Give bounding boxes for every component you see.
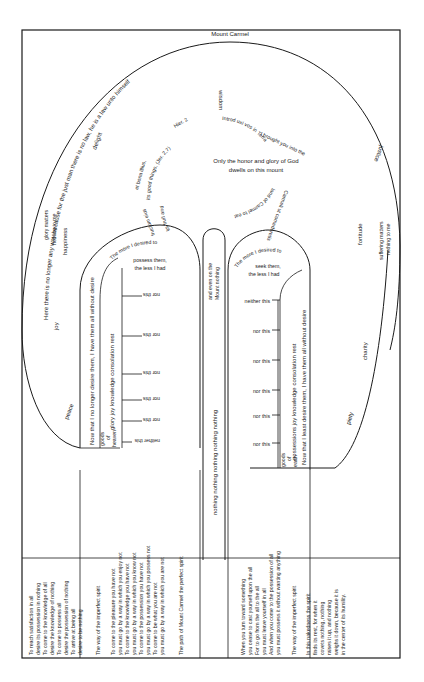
svg-text:you must go by a way in which: you must go by a way in which you posses… <box>145 545 151 655</box>
svg-text:And when you come to the posse: And when you come to the possession of a… <box>268 554 274 655</box>
right-rung-4: nor this <box>253 388 270 394</box>
left-path-label: Now that I no longer desire them, I have… <box>89 277 95 445</box>
virtue-nothing-to-me-right: nothing to me <box>385 223 391 255</box>
svg-text:weighs it down, because it is: weighs it down, because it is <box>333 589 339 655</box>
svg-text:desire the possession of nothi: desire the possession of nothing <box>63 580 69 655</box>
right-path-goods-3: earth <box>292 455 298 467</box>
middle-path-label: nothing nothing nothing nothing nothing <box>212 410 218 515</box>
svg-text:desire to be nothing: desire to be nothing <box>77 609 83 655</box>
svg-text:To come to the knowledge you h: To come to the knowledge you have not <box>124 563 130 655</box>
virtue-glory-matters: glory matters <box>43 210 49 240</box>
svg-text:To reach satisfaction in all: To reach satisfaction in all <box>28 596 34 655</box>
virtue-nothing-to-me-left: nothing to me <box>51 213 57 245</box>
svg-text:desire the knowledge of nothin: desire the knowledge of nothing <box>49 582 55 655</box>
middle-path-top-2: Mount nothing <box>214 267 220 300</box>
left-rung-2: nor this <box>143 332 160 338</box>
left-path-goods-3: heaven <box>111 430 117 447</box>
svg-text:you cease to cast yourself upo: you cease to cast yourself upon the all <box>247 567 253 655</box>
summit-right-arc-3: land of Carmel to eat <box>233 188 276 221</box>
left-rung-3: nor this <box>143 370 160 376</box>
svg-text:you must go by a way in which: you must go by a way in which you know n… <box>131 552 137 655</box>
panel-imperfect-spirit-1: The way of the imperfect spirit To come … <box>95 545 165 655</box>
summit-center-line-1: Only the honor and glory of God <box>213 158 298 164</box>
right-rung-6: nor this <box>253 441 270 447</box>
svg-text:To come to the possession you: To come to the possession you have not <box>138 562 144 655</box>
svg-text:desire its possession in nothi: desire its possession in nothing <box>35 583 41 655</box>
summit-left-arc: its good things, (Jer. 2,7) <box>145 145 172 200</box>
virtue-charity: charity <box>362 342 368 360</box>
virtue-suffering-matters: suffering matters <box>378 221 384 260</box>
svg-text:In this nakedness the spirit: In this nakedness the spirit <box>305 593 311 655</box>
right-rung-1: neither this <box>245 298 271 304</box>
summit-left-arc-2: et bona illius, <box>133 159 147 190</box>
mount-carmel-diagram: Mount Carmel Here there is no longer any… <box>0 0 424 682</box>
panel-perfect-spirit: The path of Mount Carmel the perfect spi… <box>178 551 281 655</box>
right-rung-2: nor this <box>253 328 270 334</box>
left-rung-1: nor this <box>143 292 160 298</box>
svg-text:To come to the knowledge of al: To come to the knowledge of all <box>42 582 48 655</box>
right-path-items: possessions joy knowledge consolation re… <box>291 343 297 460</box>
virtue-wisdom: wisdom <box>218 89 224 110</box>
virtue-piety: piety <box>345 411 354 425</box>
summit-right-arc: Introd uxi vos in Terra <box>222 115 269 143</box>
svg-text:finds its rest, for when it: finds its rest, for when it <box>312 600 318 655</box>
svg-text:For to go from the all to the: For to go from the all to the all <box>254 586 260 655</box>
left-path-header-3: the less I had <box>135 265 166 271</box>
summit-center-line-2: dwells on this mount <box>229 167 284 173</box>
svg-text:To come to possess all: To come to possess all <box>56 603 62 655</box>
svg-text:To arrive at being all: To arrive at being all <box>70 609 76 655</box>
right-rung-3: nor this <box>253 358 270 364</box>
svg-text:covets nothing, nothing: covets nothing, nothing <box>319 602 325 655</box>
summit-left-arc-3: its fruit and <box>158 206 170 233</box>
svg-text:To come to be what you are not: To come to be what you are not <box>152 582 158 655</box>
svg-text:raises it up, and nothing: raises it up, and nothing <box>326 600 332 655</box>
left-rung-4: nor this <box>143 396 160 402</box>
right-path-header-2: seek them, <box>255 263 280 269</box>
middle-path-top-1: and even on the <box>207 263 213 300</box>
left-rung-6: neither this <box>134 438 160 444</box>
right-rungs: neither this nor this nor this nor this … <box>245 298 280 447</box>
svg-text:you must leave yourself in all: you must leave yourself in all <box>261 588 267 655</box>
right-path-label: Now that I least desire them, I have the… <box>301 309 307 465</box>
summit-left-arc-4: fructum eius <box>140 208 155 237</box>
left-rungs: nor this nor this nor this nor this nor … <box>122 292 160 444</box>
svg-text:you must possess it without wa: you must possess it without wanting anyt… <box>275 551 281 655</box>
right-path-header-3: the less I had <box>249 271 280 277</box>
summit-right-arc-2: I brought you into the <box>260 130 307 156</box>
virtue-delight: delight <box>91 131 103 150</box>
svg-text:you must go by a way in which: you must go by a way in which you enjoy … <box>117 552 123 655</box>
left-path-items: glory joy knowledge consolation rest <box>109 333 115 430</box>
outer-arc-text: Here there is no longer any way because … <box>43 78 131 320</box>
left-rung-5: nor this <box>143 417 160 423</box>
virtue-happiness: happiness <box>62 228 68 255</box>
svg-text:you must go by a way in which: you must go by a way in which you are no… <box>159 557 165 655</box>
panel-heading: The path of Mount Carmel the perfect spi… <box>178 556 184 655</box>
svg-text:When you turn toward something: When you turn toward something <box>240 579 246 655</box>
panel-heading: The way of the imperfect spirit <box>291 585 297 655</box>
panel-imperfect-spirit-2: The way of the imperfect spirit In this … <box>291 585 346 655</box>
mountain-outline <box>22 42 400 448</box>
panel-heading: The way of the imperfect spirit <box>95 585 101 655</box>
virtue-peace: peace <box>63 402 74 420</box>
virtue-fortitude: fortitude <box>357 223 363 245</box>
virtue-joy: joy <box>53 322 59 331</box>
summit-hier: Hier. 2 <box>173 116 189 129</box>
left-path-header-2: possess them, <box>133 257 166 263</box>
svg-text:in the center of its humility.: in the center of its humility. <box>340 594 346 655</box>
diagram-title: Mount Carmel <box>211 31 249 37</box>
virtue-justice: justice <box>373 144 385 164</box>
right-rung-5: nor this <box>253 413 270 419</box>
outer-frame <box>22 30 400 658</box>
panel-summary: To reach satisfaction in all desire its … <box>28 580 83 655</box>
svg-text:To come to the pleasure you ha: To come to the pleasure you have not <box>110 568 116 655</box>
